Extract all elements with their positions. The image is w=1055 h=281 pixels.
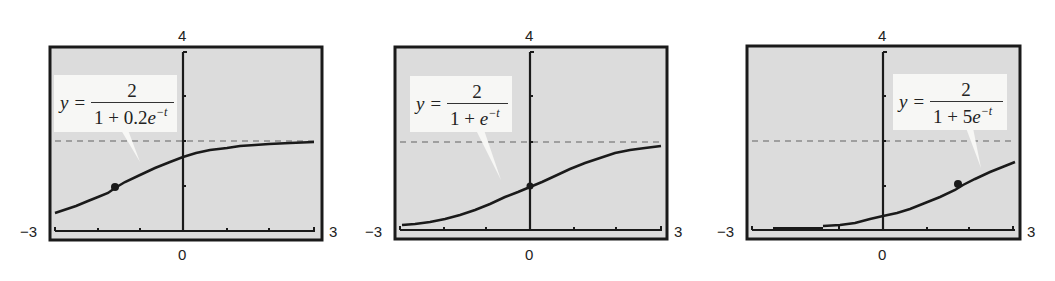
equation-callout: y = 2 1 + 5e−t bbox=[893, 74, 1007, 130]
equation-lhs: y = bbox=[416, 93, 442, 115]
y-max-label: 4 bbox=[878, 28, 886, 43]
x-max-label: 3 bbox=[1027, 224, 1035, 239]
equation-numerator: 2 bbox=[929, 79, 1003, 101]
equation-lhs: y = bbox=[899, 91, 925, 113]
x-min-label: −3 bbox=[717, 224, 734, 239]
marked-point bbox=[954, 180, 962, 188]
graph-panel-1: y = 2 1 + 0.2e−t 4 −3 3 0 bbox=[0, 0, 350, 281]
x-origin-label: 0 bbox=[178, 247, 186, 262]
x-max-label: 3 bbox=[674, 224, 682, 239]
plot-1 bbox=[0, 0, 350, 281]
x-origin-label: 0 bbox=[525, 247, 533, 262]
x-min-label: −3 bbox=[365, 224, 382, 239]
x-min-label: −3 bbox=[20, 224, 37, 239]
fraction-bar bbox=[91, 102, 174, 103]
equation-denominator: 1 + 0.2e−t bbox=[94, 105, 167, 129]
equation-callout: y = 2 1 + 0.2e−t bbox=[54, 75, 177, 132]
equation-callout: y = 2 1 + e−t bbox=[410, 76, 512, 132]
marked-point bbox=[527, 183, 534, 190]
equation-numerator: 2 bbox=[446, 81, 508, 103]
equation-lhs: y = bbox=[60, 92, 86, 114]
x-origin-label: 0 bbox=[878, 247, 886, 262]
curve-flat-segment bbox=[773, 227, 823, 231]
fraction-bar bbox=[447, 103, 508, 104]
x-max-label: 3 bbox=[329, 224, 337, 239]
y-max-label: 4 bbox=[178, 28, 186, 43]
y-max-label: 4 bbox=[525, 28, 533, 43]
graph-panel-2: y = 2 1 + e−t 4 −3 3 0 bbox=[350, 0, 700, 281]
graph-panel-3: y = 2 1 + 5e−t 4 −3 3 0 bbox=[705, 0, 1055, 281]
fraction-bar bbox=[930, 101, 1003, 102]
equation-numerator: 2 bbox=[90, 80, 174, 102]
marked-point bbox=[111, 183, 119, 191]
equation-denominator: 1 + 5e−t bbox=[933, 104, 992, 128]
equation-denominator: 1 + e−t bbox=[450, 106, 500, 130]
